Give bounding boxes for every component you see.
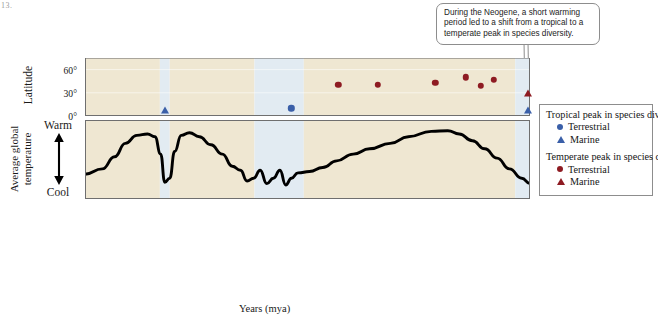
latitude-tick-label: 0°	[53, 111, 77, 122]
temperature-panel	[85, 120, 530, 199]
legend-item-temperate-terrestrial: Terrestrial	[557, 164, 647, 175]
temperate-marine-marker-icon	[557, 178, 565, 185]
callout-text: During the Neogene, a short warming peri…	[444, 8, 583, 38]
data-point-tropical-marine	[161, 106, 169, 113]
temperature-direction-arrow-icon	[52, 133, 66, 185]
cool-label: Cool	[36, 186, 80, 198]
latitude-tick-label: 30°	[53, 87, 77, 98]
legend-group-title-temperate: Temperate peak in species diversity	[546, 151, 647, 162]
legend-label: Marine	[570, 176, 599, 187]
latitude-panel: 0°30°60°	[85, 58, 530, 116]
figure-root: 13. During the Neogene, a short warming …	[0, 0, 658, 324]
tropical-terrestrial-marker-icon	[557, 124, 563, 130]
latitude-axis-title: Latitude	[22, 1, 36, 57]
legend: Tropical peak in species diversity Terre…	[539, 104, 653, 196]
temperature-axis-title: Average global temperature	[8, 120, 38, 198]
geologic-timescale-panel	[85, 203, 530, 275]
tropical-marine-marker-icon	[557, 136, 565, 143]
legend-group-title-tropical: Tropical peak in species diversity	[546, 109, 647, 120]
x-axis-title: Years (mya)	[239, 303, 290, 314]
legend-item-tropical-terrestrial: Terrestrial	[557, 121, 647, 132]
data-point-tropical-marine	[524, 106, 532, 113]
page-artifact-text: 13.	[1, 1, 13, 10]
legend-item-temperate-marine: Marine	[557, 176, 647, 187]
data-point-temperate-marine	[524, 89, 532, 96]
legend-label: Terrestrial	[568, 121, 610, 132]
latitude-tick-label: 60°	[53, 64, 77, 75]
temperate-terrestrial-marker-icon	[557, 166, 563, 172]
legend-item-tropical-marine: Marine	[557, 134, 647, 145]
callout-box: During the Neogene, a short warming peri…	[436, 3, 600, 45]
legend-label: Marine	[570, 134, 599, 145]
legend-label: Terrestrial	[568, 164, 610, 175]
